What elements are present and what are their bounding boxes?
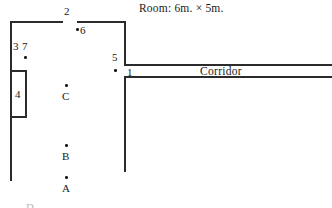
marker-label-2: 2 xyxy=(64,6,70,17)
marker-dot-6 xyxy=(76,28,79,31)
wall-room-right-lower xyxy=(124,76,126,172)
plan-title: Room: 6m. × 5m. xyxy=(139,3,224,15)
marker-dot-7 xyxy=(24,56,27,59)
point-label-b: B xyxy=(62,151,69,162)
marker-label-4: 4 xyxy=(15,89,21,100)
wall-room-right-upper xyxy=(124,21,126,65)
point-dot-c xyxy=(65,84,68,87)
point-dot-a xyxy=(65,176,68,179)
marker-label-6: 6 xyxy=(80,25,86,36)
marker-label-3: 3 xyxy=(13,41,19,52)
alcove-wall-right xyxy=(25,70,27,118)
wall-left-exterior xyxy=(10,21,12,181)
point-label-a: A xyxy=(62,183,70,194)
marker-dot-5 xyxy=(114,69,117,72)
marker-label-7: 7 xyxy=(22,41,28,52)
alcove-wall-bottom xyxy=(10,116,27,118)
marker-label-1: 1 xyxy=(127,67,133,78)
wall-top-right-segment xyxy=(77,21,126,23)
marker-label-5: 5 xyxy=(112,52,118,63)
wall-top-left-segment xyxy=(10,21,63,23)
point-label-c: C xyxy=(62,91,69,102)
floor-plan-diagram: Room: 6m. × 5m. Corridor 2 6 3 7 4 5 1 C… xyxy=(0,0,332,208)
point-dot-b xyxy=(65,144,68,147)
corridor-label: Corridor xyxy=(200,66,242,78)
point-label-d-cropped: D xyxy=(26,202,34,208)
